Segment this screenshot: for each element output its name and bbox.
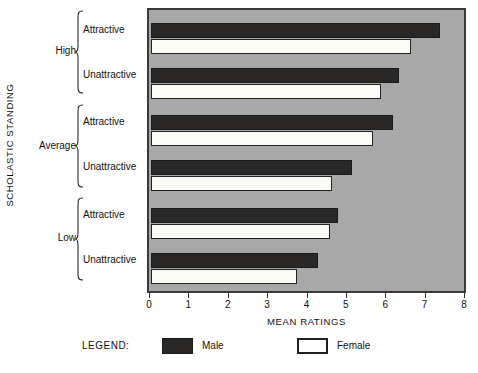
x-tick-label-0: 0 [139, 299, 159, 310]
sub-label-low-unattractive: Unattractive [83, 254, 136, 265]
legend-title: LEGEND: [82, 340, 129, 351]
legend-swatch-male [162, 338, 193, 354]
legend-label-male: Male [202, 340, 224, 351]
bar-high-unattractive-female [151, 84, 381, 99]
x-tick-3 [267, 293, 268, 298]
x-tick-label-3: 3 [257, 299, 277, 310]
x-tick-label-2: 2 [218, 299, 238, 310]
sub-label-average-unattractive: Unattractive [83, 161, 136, 172]
group-label-average: Average [22, 140, 76, 151]
sub-label-low-attractive: Attractive [83, 209, 125, 220]
bar-low-attractive-male [151, 208, 338, 223]
x-tick-2 [228, 293, 229, 298]
x-tick-4 [307, 293, 308, 298]
x-tick-8 [464, 293, 465, 298]
x-tick-label-8: 8 [454, 299, 474, 310]
chart-legend: LEGEND: Male Female [0, 336, 478, 360]
bar-high-attractive-male [151, 23, 440, 38]
group-label-low: Low [22, 232, 76, 243]
x-tick-5 [346, 293, 347, 298]
x-tick-label-1: 1 [178, 299, 198, 310]
sub-label-average-attractive: Attractive [83, 116, 125, 127]
legend-swatch-female [297, 338, 328, 354]
group-label-high: High [22, 45, 76, 56]
bar-low-unattractive-male [151, 253, 318, 268]
bar-high-unattractive-male [151, 68, 399, 83]
bar-average-attractive-female [151, 131, 373, 146]
brace-high [74, 10, 84, 94]
sub-label-high-unattractive: Unattractive [83, 69, 136, 80]
y-axis-title: SCHOLASTIC STANDING [0, 0, 18, 290]
x-tick-6 [385, 293, 386, 298]
bar-average-unattractive-male [151, 160, 352, 175]
plot-area [147, 8, 466, 293]
x-tick-1 [188, 293, 189, 298]
x-tick-label-4: 4 [297, 299, 317, 310]
x-tick-7 [425, 293, 426, 298]
legend-label-female: Female [337, 340, 370, 351]
bar-average-unattractive-female [151, 176, 332, 191]
page-bottom-edge [0, 366, 478, 373]
x-axis-title: MEAN RATINGS [147, 316, 466, 327]
bar-low-attractive-female [151, 224, 330, 239]
x-tick-label-6: 6 [375, 299, 395, 310]
x-tick-label-5: 5 [336, 299, 356, 310]
x-tick-label-7: 7 [415, 299, 435, 310]
sub-label-high-attractive: Attractive [83, 24, 125, 35]
bar-low-unattractive-female [151, 269, 297, 284]
x-tick-0 [149, 293, 150, 298]
bar-average-attractive-male [151, 115, 393, 130]
bar-high-attractive-female [151, 39, 411, 54]
